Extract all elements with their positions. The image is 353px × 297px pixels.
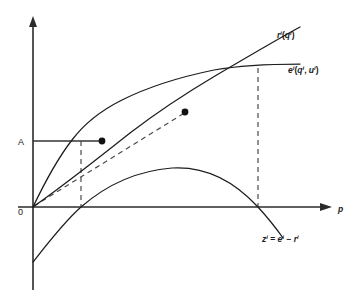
label-z-equals: =: [268, 234, 278, 244]
curve-revenue-function: [33, 27, 300, 207]
y-axis-arrowhead: [29, 16, 37, 27]
label-excess-demand-curve: zi = ei − ri: [261, 234, 299, 244]
label-revenue-paren-close: ): [292, 30, 295, 40]
axes-group: [18, 16, 332, 290]
label-level-A: A: [18, 137, 24, 147]
curves-group: [33, 27, 300, 262]
chord-from-origin: [34, 112, 186, 206]
marker-point-on-e-at-A: [99, 138, 106, 145]
curve-excess-demand: [33, 168, 283, 262]
label-revenue-curve: ri(qi): [277, 30, 295, 40]
label-z-term2-sup: i: [297, 234, 299, 240]
label-expenditure-curve: ei(qi, ui): [288, 65, 319, 75]
curve-expenditure-function: [33, 64, 300, 207]
label-expenditure-paren-close: ): [316, 65, 319, 75]
label-z-minus: −: [284, 234, 294, 244]
label-origin: 0: [18, 207, 23, 217]
markers-group: [99, 109, 189, 145]
x-axis-arrowhead: [320, 203, 332, 211]
labels-group: ri(qi) ei(qi, ui) zi = ei − ri p A 0: [18, 30, 343, 244]
guides-group: [33, 68, 258, 207]
marker-point-chord-tangency: [182, 109, 189, 116]
economics-diagram-figure: ri(qi) ei(qi, ui) zi = ei − ri p A 0: [0, 0, 353, 297]
label-x-axis: p: [337, 204, 343, 214]
diagram-canvas: ri(qi) ei(qi, ui) zi = ei − ri p A 0: [0, 0, 353, 297]
